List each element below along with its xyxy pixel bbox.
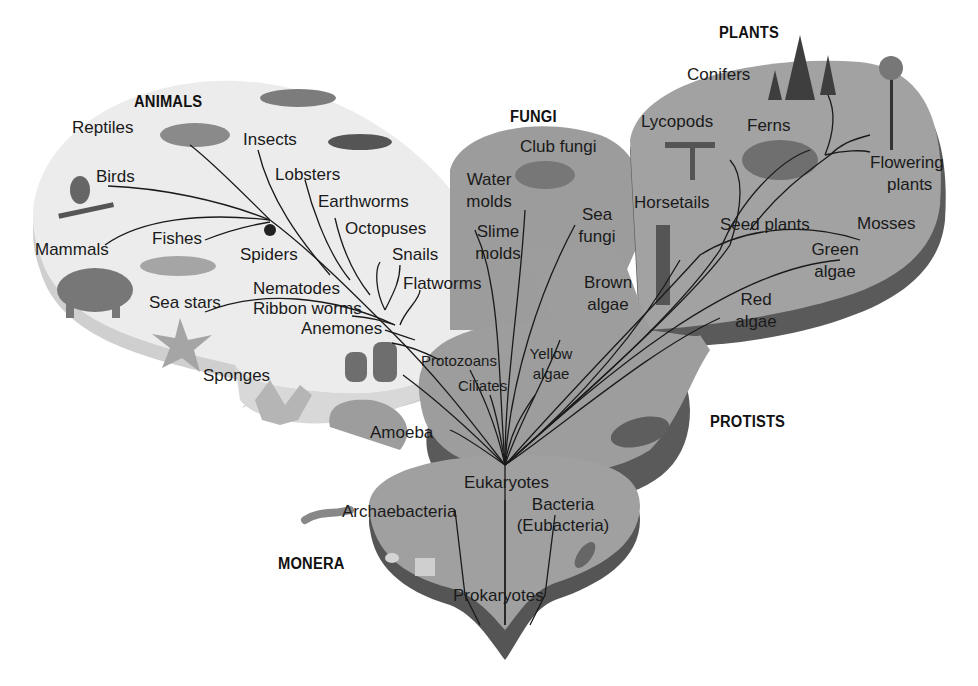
label-earthworms: Earthworms	[318, 192, 409, 211]
fern-icon	[742, 140, 818, 180]
label-birds: Birds	[96, 167, 135, 186]
spider-icon	[264, 224, 276, 236]
kingdom-label-animals: ANIMALS	[134, 93, 202, 111]
flower-icon	[890, 70, 893, 150]
kingdom-label-monera: MONERA	[278, 555, 345, 573]
label-sea-fungi-line2: fungi	[572, 227, 622, 246]
label-lobsters: Lobsters	[275, 165, 340, 184]
label-anemones: Anemones	[301, 319, 382, 338]
label-prokaryotes: Prokaryotes	[453, 586, 544, 605]
kingdom-label-plants: PLANTS	[719, 24, 779, 42]
label-sponges: Sponges	[203, 366, 270, 385]
label-snails: Snails	[392, 245, 438, 264]
lobster-icon	[328, 134, 392, 150]
label-water-molds-line1: Water	[459, 170, 519, 189]
label-octopuses: Octopuses	[345, 219, 426, 238]
label-amoeba: Amoeba	[370, 423, 433, 442]
label-bacteria-line1: Bacteria	[508, 495, 618, 514]
insect-icon	[260, 89, 336, 107]
label-flatworms: Flatworms	[403, 274, 481, 293]
mushroom-icon	[515, 161, 575, 189]
label-lycopods: Lycopods	[641, 112, 713, 131]
horsetail-icon	[656, 225, 670, 305]
reptile-icon	[160, 123, 230, 147]
label-club-fungi: Club fungi	[520, 137, 597, 156]
label-protozoans: Protozoans	[421, 352, 497, 369]
label-slime-molds-line2: molds	[470, 244, 526, 263]
label-seed-plants: Seed plants	[720, 215, 810, 234]
label-yellow-algae-line2: algae	[526, 365, 576, 382]
label-ferns: Ferns	[747, 116, 790, 135]
label-ribbon-worms: Ribbon worms	[253, 299, 362, 318]
label-mosses: Mosses	[857, 214, 916, 233]
label-green-algae-line1: Green	[808, 240, 862, 259]
label-reptiles: Reptiles	[72, 118, 133, 137]
label-flowering-line2: plants	[887, 175, 932, 194]
label-insects: Insects	[243, 130, 297, 149]
label-yellow-algae-line1: Yellow	[526, 345, 576, 362]
label-eukaryotes: Eukaryotes	[464, 473, 549, 492]
label-flowering-line1: Flowering	[870, 153, 944, 172]
label-spiders: Spiders	[240, 245, 298, 264]
label-archaebacteria: Archaebacteria	[342, 502, 456, 521]
label-slime-molds-line1: Slime	[470, 222, 526, 241]
fish-icon	[140, 256, 216, 276]
label-brown-algae-line1: Brown	[580, 273, 636, 292]
label-nematodes: Nematodes	[253, 279, 340, 298]
label-conifers: Conifers	[687, 65, 750, 84]
label-red-algae-line2: algae	[733, 312, 779, 331]
label-red-algae-line1: Red	[733, 290, 779, 309]
kingdom-label-fungi: FUNGI	[510, 108, 557, 126]
anemone-icon	[345, 352, 367, 382]
label-green-algae-line2: algae	[808, 262, 862, 281]
label-brown-algae-line2: algae	[580, 295, 636, 314]
label-water-molds-line2: molds	[459, 192, 519, 211]
bird-icon	[70, 176, 90, 204]
kingdom-label-protists: PROTISTS	[710, 413, 785, 431]
label-mammals: Mammals	[35, 240, 109, 259]
label-sea-stars: Sea stars	[149, 293, 221, 312]
label-bacteria-line2: (Eubacteria)	[508, 516, 618, 535]
label-horsetails: Horsetails	[634, 193, 710, 212]
label-sea-fungi-line1: Sea	[572, 205, 622, 224]
label-ciliates: Ciliates	[458, 377, 507, 394]
label-fishes: Fishes	[152, 229, 202, 248]
